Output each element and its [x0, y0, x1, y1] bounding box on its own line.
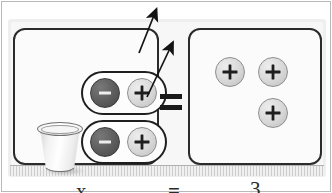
minus-chip-icon[interactable]	[90, 78, 120, 108]
zero-pair-1[interactable]	[81, 71, 167, 115]
equals-bar-bottom	[160, 105, 182, 110]
scene-canvas: x = 3	[0, 0, 332, 193]
right-workspace-panel[interactable]	[188, 28, 322, 165]
zero-pair-2[interactable]	[81, 120, 167, 164]
equation-operator: =	[168, 181, 180, 193]
equation-right-term: 3	[250, 179, 261, 193]
paper-cup-icon[interactable]	[37, 120, 85, 180]
equation-left-term: x	[76, 181, 87, 193]
equals-bar-top	[160, 94, 182, 99]
plus-chip-icon[interactable]	[127, 127, 157, 157]
equals-sign-between-panels	[160, 93, 182, 113]
plus-chip-icon[interactable]	[258, 57, 288, 87]
left-workspace-panel[interactable]	[13, 28, 159, 165]
plus-chip-icon[interactable]	[258, 98, 288, 128]
minus-chip-icon[interactable]	[90, 127, 120, 157]
plus-chip-icon[interactable]	[215, 57, 245, 87]
cup-rim-inner	[41, 125, 79, 134]
plus-chip-icon[interactable]	[127, 78, 157, 108]
